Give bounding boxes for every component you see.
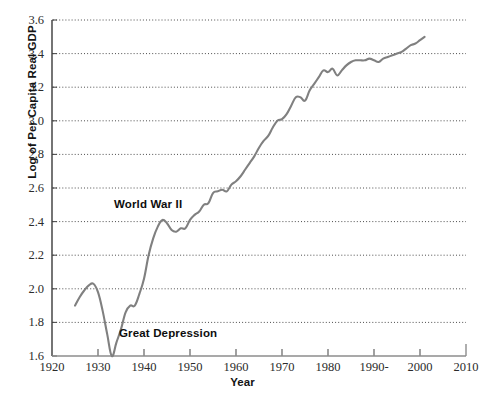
y-tick-label-3.2: 3.2	[4, 81, 44, 94]
y-axis-title: Log of Per Capita Real GDP	[26, 2, 38, 202]
y-tick-label-2.8: 2.8	[4, 148, 44, 161]
x-axis-title: Year	[0, 376, 485, 388]
x-axis-ticks	[98, 349, 420, 356]
chart-figure: 1.61.82.02.22.42.62.83.03.23.43.6 192019…	[0, 0, 485, 395]
y-tick-label-3: 3.0	[4, 115, 44, 128]
y-tick-label-2: 2.0	[4, 283, 44, 296]
chart-canvas	[0, 0, 485, 395]
gdp-data-line	[75, 37, 425, 356]
y-tick-label-3.6: 3.6	[4, 14, 44, 27]
y-axis-ticks	[52, 20, 57, 356]
y-tick-label-3.4: 3.4	[4, 48, 44, 61]
x-tick-label-2010: 2010	[436, 361, 485, 374]
y-tick-label-2.6: 2.6	[4, 182, 44, 195]
annotation-world-war-ii: World War II	[114, 198, 182, 210]
gridlines	[53, 20, 466, 322]
y-tick-label-1.8: 1.8	[4, 316, 44, 329]
y-tick-label-2.4: 2.4	[4, 216, 44, 229]
y-tick-label-2.2: 2.2	[4, 249, 44, 262]
annotation-great-depression: Great Depression	[119, 327, 217, 339]
